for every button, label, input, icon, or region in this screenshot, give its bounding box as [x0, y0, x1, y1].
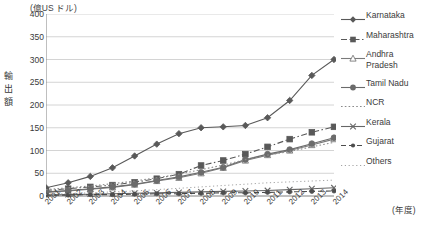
legend-item-tamil-nadu[interactable]: Tamil Nadu: [340, 78, 440, 90]
legend-label: Kerala: [366, 117, 391, 128]
legend-item-gujarat[interactable]: Gujarat: [340, 136, 440, 148]
legend-item-kerala[interactable]: Kerala: [340, 117, 440, 129]
legend-label: NCR: [366, 97, 384, 108]
legend-label: Tamil Nadu: [366, 78, 409, 89]
legend-label: Andhra Pradesh: [366, 49, 398, 70]
x-tick-2014: 2014: [331, 187, 350, 206]
legend-item-maharashtra[interactable]: Maharashtra: [340, 30, 440, 42]
legend-label: Maharashtra: [366, 30, 414, 41]
chart-figure: (億US ドル) 輸 出 額 400350300250200150100500 …: [0, 0, 440, 233]
legend-marker-icon: [340, 11, 366, 22]
x-tick-2012: 2012: [287, 187, 306, 206]
x-axis-title: (年度): [392, 203, 416, 215]
x-tick-2009: 2009: [220, 187, 239, 206]
legend-item-andhra-pradesh[interactable]: Andhra Pradesh: [340, 49, 440, 70]
x-tick-2010: 2010: [242, 187, 261, 206]
x-tick-2005: 2005: [132, 187, 151, 206]
legend-marker-icon: [340, 98, 366, 109]
legend-item-others[interactable]: Others: [340, 156, 440, 168]
legend-marker-icon: [340, 157, 366, 168]
x-tick-2013: 2013: [309, 187, 328, 206]
legend-item-karnataka[interactable]: Karnataka: [340, 10, 440, 22]
legend-marker-icon: [340, 31, 366, 42]
legend-marker-icon: [340, 137, 366, 148]
x-tick-2004: 2004: [109, 187, 128, 206]
x-tick-2003: 2003: [87, 187, 106, 206]
x-tick-2002: 2002: [65, 187, 84, 206]
x-tick-2008: 2008: [198, 187, 217, 206]
x-tick-2006: 2006: [154, 187, 173, 206]
x-tick-2001: 2001: [43, 187, 62, 206]
chart-legend: KarnatakaMaharashtraAndhra PradeshTamil …: [340, 10, 440, 175]
legend-marker-icon: [340, 50, 366, 61]
legend-marker-icon: [340, 118, 366, 129]
legend-label: Gujarat: [366, 136, 394, 147]
legend-item-ncr[interactable]: NCR: [340, 97, 440, 109]
legend-label: Karnataka: [366, 10, 405, 21]
legend-marker-icon: [340, 79, 366, 90]
legend-label: Others: [366, 156, 392, 167]
x-tick-2011: 2011: [265, 188, 284, 207]
x-tick-2007: 2007: [176, 187, 195, 206]
